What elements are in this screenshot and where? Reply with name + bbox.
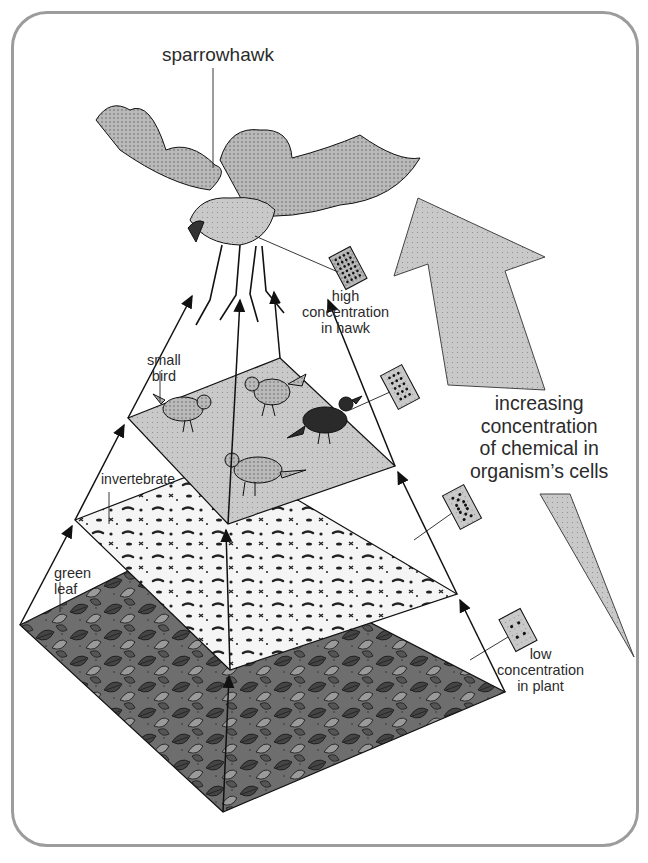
label-increasing-concentration: increasing concentration of chemical in … [470, 392, 608, 482]
label-low-concentration: low concentration in plant [497, 646, 584, 695]
cell-card-bird [380, 365, 419, 410]
label-small-bird: small bird [147, 352, 181, 384]
label-invertebrate: invertebrate [101, 472, 175, 488]
label-high-concentration: high concentration in hawk [302, 288, 389, 337]
cell-card-hawk [329, 246, 367, 289]
label-sparrowhawk: sparrowhawk [162, 44, 274, 65]
cell-card-invertebrate [442, 485, 481, 530]
label-green-leaf: green leaf [54, 565, 91, 597]
